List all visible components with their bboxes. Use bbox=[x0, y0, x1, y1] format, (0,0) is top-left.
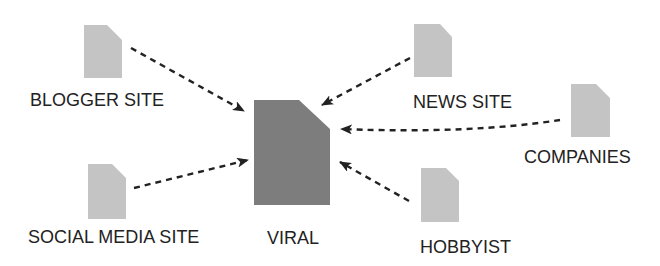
node-label: BLOGGER SITE bbox=[30, 90, 164, 110]
document-icon bbox=[88, 164, 126, 219]
edge-companies-to-viral bbox=[341, 120, 560, 130]
edge-hobbyist-to-viral bbox=[340, 162, 409, 201]
node-label: HOBBYIST bbox=[420, 237, 511, 257]
node-viral: VIRAL bbox=[254, 100, 330, 248]
document-icon bbox=[421, 168, 459, 222]
document-icon bbox=[254, 100, 330, 205]
node-blogger-site: BLOGGER SITE bbox=[30, 25, 164, 110]
node-label: NEWS SITE bbox=[413, 92, 512, 112]
document-icon bbox=[84, 25, 122, 78]
node-hobbyist: HOBBYIST bbox=[420, 168, 511, 257]
document-icon bbox=[414, 24, 452, 77]
node-news-site: NEWS SITE bbox=[413, 24, 512, 112]
node-companies: COMPANIES bbox=[524, 84, 631, 167]
node-label: VIRAL bbox=[267, 228, 319, 248]
document-icon bbox=[571, 84, 610, 137]
edge-news-to-viral bbox=[322, 58, 410, 105]
edges bbox=[131, 48, 560, 201]
edge-social-to-viral bbox=[134, 160, 248, 188]
node-label: SOCIAL MEDIA SITE bbox=[28, 227, 199, 247]
node-label: COMPANIES bbox=[524, 147, 631, 167]
viral-content-diagram: BLOGGER SITE NEWS SITE COMPANIES SOCIAL … bbox=[0, 0, 660, 266]
node-social-media-site: SOCIAL MEDIA SITE bbox=[28, 164, 199, 247]
